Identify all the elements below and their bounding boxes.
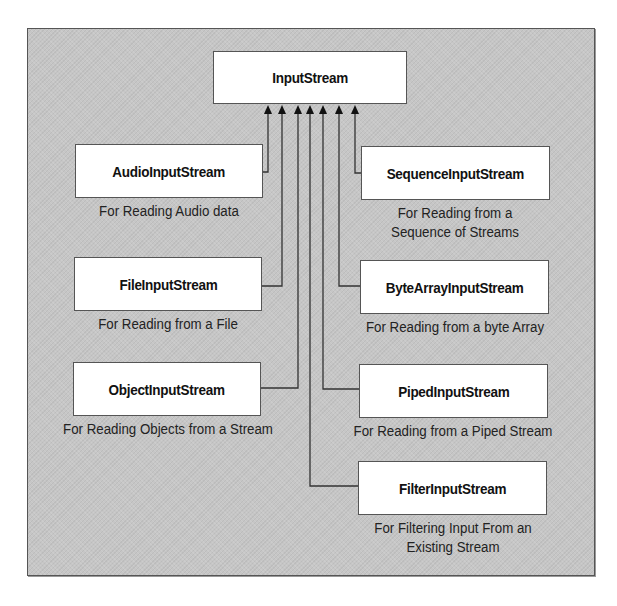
desc-fileinputstream: For Reading from a File <box>64 315 273 334</box>
box-sequenceinputstream: SequenceInputStream <box>361 146 550 200</box>
desc-line: Existing Stream <box>350 538 555 557</box>
box-label: AudioInputStream <box>113 163 226 180</box>
box-bytearrayinputstream: ByteArrayInputStream <box>360 260 549 314</box>
desc-line: For Reading Objects from a Stream <box>37 420 299 439</box>
box-label: FilterInputStream <box>399 480 506 497</box>
box-label: ObjectInputStream <box>109 381 225 398</box>
box-audioinputstream: AudioInputStream <box>75 144 263 198</box>
box-label: ByteArrayInputStream <box>386 279 524 296</box>
desc-objectinputstream: For Reading Objects from a Stream <box>37 420 299 439</box>
root-box-inputstream: InputStream <box>213 51 407 104</box>
root-label: InputStream <box>272 69 348 86</box>
box-label: SequenceInputStream <box>387 165 524 182</box>
desc-audioinputstream: For Reading Audio data <box>65 202 272 221</box>
box-pipedinputstream: PipedInputStream <box>359 364 548 418</box>
desc-line: For Filtering Input From an <box>350 519 555 538</box>
box-objectinputstream: ObjectInputStream <box>73 362 261 416</box>
box-label: FileInputStream <box>119 276 217 293</box>
desc-line: For Reading Audio data <box>65 202 272 221</box>
desc-filterinputstream: For Filtering Input From an Existing Str… <box>350 519 555 557</box>
desc-sequenceinputstream: For Reading from a Sequence of Streams <box>355 204 555 242</box>
desc-line: Sequence of Streams <box>355 223 555 242</box>
box-label: PipedInputStream <box>398 383 509 400</box>
box-filterinputstream: FilterInputStream <box>358 461 547 515</box>
desc-line: For Reading from a <box>355 204 555 223</box>
desc-line: For Reading from a File <box>64 315 273 334</box>
box-fileinputstream: FileInputStream <box>74 257 262 311</box>
desc-line: For Reading from a Piped Stream <box>336 422 570 441</box>
desc-bytearrayinputstream: For Reading from a byte Array <box>346 318 565 337</box>
desc-pipedinputstream: For Reading from a Piped Stream <box>336 422 570 441</box>
desc-line: For Reading from a byte Array <box>346 318 565 337</box>
